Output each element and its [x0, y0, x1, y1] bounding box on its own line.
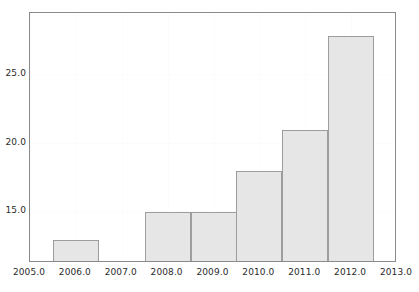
x-axis-tick-label: 2006.0 — [59, 267, 91, 277]
y-axis-tick-label: 15.0 — [0, 205, 26, 215]
plot-area — [29, 12, 396, 262]
bar — [282, 130, 328, 262]
x-axis-tick-label: 2011.0 — [288, 267, 320, 277]
bar — [145, 212, 191, 262]
gridline-vertical — [76, 13, 77, 261]
gridline-vertical — [122, 13, 123, 261]
bar — [236, 171, 282, 262]
bar — [191, 212, 237, 262]
bar-chart: 15.020.025.0 2005.02006.02007.02008.0200… — [0, 0, 419, 292]
x-axis-tick-label: 2012.0 — [334, 267, 366, 277]
x-axis-tick-label: 2008.0 — [151, 267, 183, 277]
x-axis-tick-label: 2010.0 — [242, 267, 274, 277]
y-axis-tick-label: 25.0 — [0, 68, 26, 78]
gridline-vertical — [30, 13, 31, 261]
y-axis-tick-labels: 15.020.025.0 — [0, 0, 26, 292]
bar — [53, 240, 99, 262]
y-axis-tick-label: 20.0 — [0, 137, 26, 147]
x-axis-tick-label: 2005.0 — [13, 267, 45, 277]
x-axis-tick-label: 2009.0 — [196, 267, 228, 277]
x-axis-tick-labels: 2005.02006.02007.02008.02009.02010.02011… — [0, 267, 419, 281]
bar — [328, 36, 374, 262]
x-axis-tick-label: 2013.0 — [380, 267, 412, 277]
x-axis-tick-label: 2007.0 — [105, 267, 137, 277]
